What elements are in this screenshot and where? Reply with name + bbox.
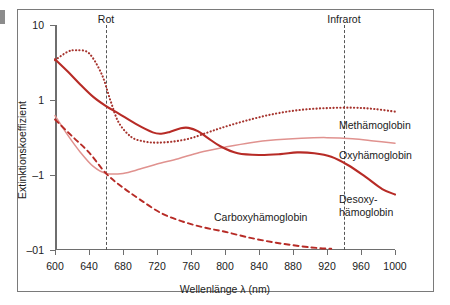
x-tick-mark <box>191 250 192 255</box>
x-tick-mark <box>395 250 396 255</box>
x-tick-mark <box>123 250 124 255</box>
x-tick-mark <box>89 250 90 255</box>
x-tick-label: 960 <box>352 260 370 272</box>
series-label-desoxyhaemoglobin-line1: Desoxy- <box>339 193 378 205</box>
x-tick-label: 880 <box>284 260 302 272</box>
x-axis-title: Wellenlänge λ (nm) <box>55 283 395 295</box>
y-tick-mark <box>50 250 55 251</box>
reference-label-rot: Rot <box>98 13 114 25</box>
x-tick-mark <box>361 250 362 255</box>
x-tick-mark <box>293 250 294 255</box>
x-tick-mark <box>327 250 328 255</box>
series-label-desoxyhaemoglobin-line2: hämoglobin <box>339 206 393 218</box>
x-tick-label: 680 <box>114 260 132 272</box>
x-tick-label: 840 <box>250 260 268 272</box>
x-tick-label: 760 <box>182 260 200 272</box>
x-tick-mark <box>55 250 56 255</box>
x-tick-label: 640 <box>80 260 98 272</box>
x-tick-mark <box>157 250 158 255</box>
series-label-carboxyhaemoglobin: Carboxyhämoglobin <box>214 211 307 223</box>
x-tick-label: 1000 <box>383 260 406 272</box>
y-tick-label: 10 <box>32 19 44 31</box>
series-label-oxyhaemoglobin: Oxyhämoglobin <box>339 149 412 161</box>
y-tick-label: 1 <box>38 94 44 106</box>
series-label-methaemoglobin: Methämoglobin <box>339 119 411 131</box>
figure-root: 6006406807207608008408809209601000 101–1… <box>0 0 450 305</box>
x-tick-mark <box>259 250 260 255</box>
page-edge-mark <box>0 10 5 24</box>
y-tick-label: –01 <box>26 244 44 256</box>
reference-label-infrarot: Infrarot <box>327 13 360 25</box>
x-tick-label: 600 <box>46 260 64 272</box>
x-tick-label: 720 <box>148 260 166 272</box>
x-tick-label: 800 <box>216 260 234 272</box>
y-tick-label: –1 <box>32 169 44 181</box>
x-tick-label: 920 <box>318 260 336 272</box>
y-axis-title: Extinktionskoeffizient <box>16 101 28 199</box>
x-tick-mark <box>225 250 226 255</box>
